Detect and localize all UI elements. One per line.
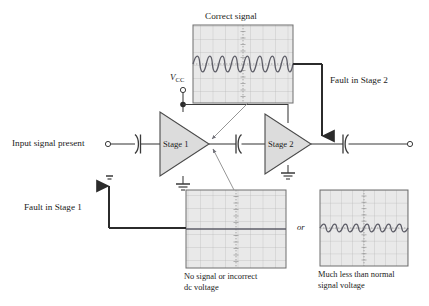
input-signal-label: Input signal present (12, 138, 84, 149)
correct-signal-scope (193, 25, 293, 103)
or-label: or (297, 222, 305, 233)
stage1-label: Stage 1 (163, 139, 189, 149)
no-signal-caption-line1: No signal or incorrect (184, 272, 304, 283)
low-amplitude-scope (320, 190, 408, 266)
signal-path-wires (105, 112, 412, 176)
scope-pointer-lines (212, 103, 248, 190)
low-amplitude-caption-line1: Much less than normal (318, 270, 429, 281)
correct-signal-caption: Correct signal (205, 11, 257, 22)
stage2-label: Stage 2 (268, 139, 294, 149)
figure-canvas: Correct signal VCC Input signal present … (0, 0, 429, 306)
fault-stage1-label: Fault in Stage 1 (24, 202, 82, 213)
no-signal-caption: No signal or incorrect dc voltage (184, 272, 304, 293)
fault-stage2-label: Fault in Stage 2 (330, 75, 388, 86)
fault-stage-2-arrow (293, 64, 322, 136)
no-signal-scope (186, 190, 286, 268)
low-amplitude-caption: Much less than normal signal voltage (318, 270, 429, 291)
no-signal-caption-line2: dc voltage (184, 283, 304, 294)
vcc-label: VCC (170, 72, 185, 83)
circuit-diagram-artwork (0, 0, 429, 306)
fault-stage-1-arrow (109, 186, 186, 228)
low-amplitude-caption-line2: signal voltage (318, 281, 429, 292)
vcc-subscript: CC (176, 76, 185, 83)
